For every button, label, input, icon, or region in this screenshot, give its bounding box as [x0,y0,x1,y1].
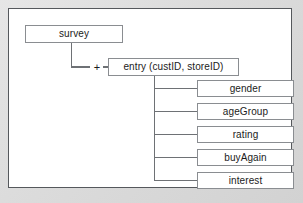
node-attribute-gender-label: gender [230,84,262,94]
node-attribute-agegroup[interactable]: ageGroup [197,103,294,120]
node-attribute-rating[interactable]: rating [197,126,294,143]
node-attribute-rating-label: rating [233,130,259,140]
diagram-panel: survey + entry (custID, storeID) gender … [8,8,292,188]
node-attribute-gender[interactable]: gender [197,80,294,97]
node-attribute-interest[interactable]: interest [197,172,294,189]
plus-icon: + [91,60,103,74]
node-attribute-agegroup-label: ageGroup [223,107,268,117]
node-attribute-interest-label: interest [229,176,263,186]
node-attribute-buyagain[interactable]: buyAgain [197,149,294,166]
node-survey[interactable]: survey [25,25,123,43]
node-entry-label: entry (custID, storeID) [123,62,223,72]
plus-icon-glyph: + [94,62,100,73]
node-survey-label: survey [59,29,89,39]
node-entry[interactable]: entry (custID, storeID) [108,58,239,76]
connector-survey-to-entry [72,43,91,67]
diagram-page: survey + entry (custID, storeID) gender … [0,0,303,203]
node-attribute-buyagain-label: buyAgain [224,153,267,163]
